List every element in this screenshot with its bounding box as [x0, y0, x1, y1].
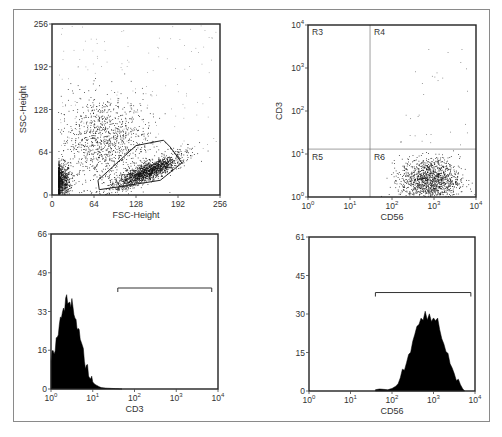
tick-label: 16: [38, 345, 48, 355]
tick-label: 66: [38, 229, 48, 239]
tick-label: 102: [386, 394, 399, 405]
tick-label: 0: [42, 384, 47, 394]
tick-label: 256: [213, 199, 227, 209]
quadrant-label-r6: R6: [374, 152, 385, 162]
scatter-points: [380, 49, 475, 197]
cd3-histogram: 100101102103104016334966CD3: [38, 229, 226, 414]
tick-label: 0: [43, 190, 48, 200]
tick-label: 0: [300, 386, 305, 396]
quadrant-label-r4: R4: [374, 27, 385, 37]
tick-label: 49: [38, 268, 48, 278]
x-axis-label: FSC-Height: [112, 210, 160, 220]
cd56-cd3-dot-plot: R3R4R5R6100101102103104100101102103104CD…: [274, 19, 483, 222]
tick-label: 101: [86, 392, 99, 403]
tick-label: 0: [50, 199, 55, 209]
tick-label: 102: [386, 200, 399, 211]
tick-label: 33: [38, 307, 48, 317]
gate-marker-bracket: [375, 293, 470, 297]
tick-label: 101: [344, 394, 357, 405]
tick-label: 256: [34, 19, 48, 29]
tick-label: 103: [170, 392, 183, 403]
scatter-points: [58, 26, 216, 196]
tick-label: 64: [39, 147, 49, 157]
cd56-histogram: 100101102103104015304561CD56: [296, 232, 483, 416]
y-axis-label: CD3: [274, 102, 284, 120]
tick-label: 102: [128, 392, 141, 403]
tick-label: 45: [296, 271, 306, 281]
tick-label: 15: [296, 348, 306, 358]
tick-label: 104: [470, 200, 483, 211]
tick-label: 104: [212, 392, 225, 403]
tick-label: 128: [129, 199, 143, 209]
tick-label: 192: [34, 62, 48, 72]
tick-label: 128: [34, 105, 48, 115]
figure-canvas: 064128192256064128192256FSC-HeightSSC-He…: [0, 0, 502, 437]
tick-label: 104: [469, 394, 482, 405]
fsc-ssc-scatter-plot: 064128192256064128192256FSC-HeightSSC-He…: [18, 19, 227, 220]
tick-label: 104: [291, 19, 304, 30]
quadrant-label-r3: R3: [312, 27, 323, 37]
tick-label: 102: [291, 105, 304, 116]
gate-marker-bracket: [118, 288, 212, 292]
plot-frame: [52, 24, 220, 195]
x-axis-label: CD3: [125, 404, 143, 414]
quadrant-label-r5: R5: [312, 152, 323, 162]
tick-label: 64: [89, 199, 99, 209]
tick-label: 101: [291, 148, 304, 159]
tick-label: 103: [428, 200, 441, 211]
tick-label: 30: [296, 309, 306, 319]
x-axis-label: CD56: [380, 406, 403, 416]
figure: 064128192256064128192256FSC-HeightSSC-He…: [0, 0, 502, 437]
tick-label: 103: [291, 62, 304, 73]
tick-label: 103: [427, 394, 440, 405]
histogram-area: [51, 295, 122, 389]
tick-label: 100: [302, 200, 315, 211]
y-axis-label: SSC-Height: [18, 85, 28, 133]
tick-label: 101: [344, 200, 357, 211]
histogram-area: [375, 311, 464, 391]
x-axis-label: CD56: [380, 212, 403, 222]
tick-label: 192: [171, 199, 185, 209]
tick-label: 61: [296, 232, 306, 242]
